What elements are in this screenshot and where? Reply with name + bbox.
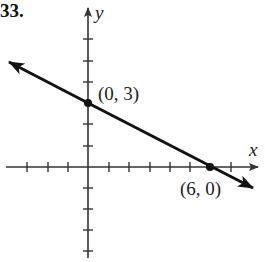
coordinate-graph: y x (0, 3) (6, 0) bbox=[0, 0, 265, 262]
point-x-intercept bbox=[206, 163, 214, 171]
point-label-y-intercept: (0, 3) bbox=[98, 83, 139, 105]
point-y-intercept bbox=[84, 99, 92, 107]
point-label-x-intercept: (6, 0) bbox=[180, 178, 221, 200]
graph-line-right bbox=[88, 103, 253, 188]
x-axis-label: x bbox=[248, 139, 258, 160]
graph-line bbox=[9, 62, 88, 103]
y-axis-label: y bbox=[93, 2, 104, 23]
